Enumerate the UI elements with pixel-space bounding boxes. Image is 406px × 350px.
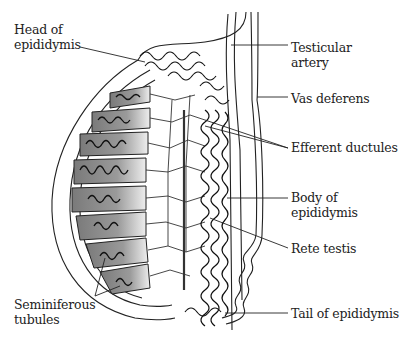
label-efferent-ductules: Efferent ductules [291, 140, 398, 155]
label-tail-of-epididymis: Tail of epididymis [291, 306, 399, 321]
rete-testis [146, 94, 205, 290]
label-rete-testis: Rete testis [291, 241, 356, 256]
anatomy-diagram: Head of epididymis Testicular artery Vas… [0, 0, 406, 350]
label-seminiferous-tubules: Seminiferous tubules [14, 297, 95, 327]
label-body-of-epididymis: Body of epididymis [291, 190, 358, 220]
label-head-of-epididymis: Head of epididymis [14, 22, 81, 52]
label-testicular-artery: Testicular artery [291, 40, 352, 70]
label-vas-deferens: Vas deferens [291, 91, 370, 106]
